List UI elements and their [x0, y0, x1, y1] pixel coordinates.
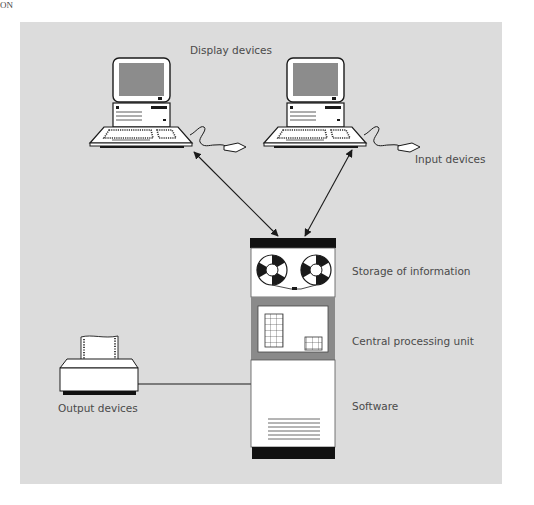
label-display-devices: Display devices	[190, 44, 272, 56]
software-section	[251, 360, 335, 447]
label-input-devices: Input devices	[415, 153, 486, 165]
cpu-grid-large	[265, 314, 283, 347]
mainframe-top-bar	[250, 238, 336, 248]
mouse-icon	[224, 143, 246, 152]
cpu-grid-small	[305, 337, 322, 350]
label-storage-of-information: Storage of information	[352, 265, 470, 277]
input-device-computer-right	[264, 58, 420, 152]
mouse-icon	[398, 143, 420, 152]
printer-icon	[60, 336, 138, 395]
label-software: Software	[352, 400, 398, 412]
display-device-computer-left	[90, 58, 246, 152]
bidirectional-arrow-left	[194, 152, 278, 236]
label-output-devices: Output devices	[58, 402, 138, 414]
tape-reel-left-icon	[257, 255, 287, 285]
screen	[119, 63, 164, 96]
computer-system-diagram	[0, 0, 534, 505]
bidirectional-arrow-right	[305, 150, 352, 236]
label-central-processing-unit: Central processing unit	[352, 335, 474, 347]
mainframe-computer	[250, 238, 336, 459]
mainframe-base	[252, 447, 335, 459]
tape-reel-right-icon	[301, 255, 331, 285]
screen	[293, 63, 338, 96]
